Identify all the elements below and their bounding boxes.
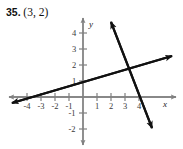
x-tick-label-neg3: -3	[37, 101, 44, 111]
y-tick-label-2: 2	[72, 60, 76, 70]
y-tick-label-neg2: -2	[68, 124, 75, 134]
y-tick-label-neg1: -1	[68, 108, 75, 118]
y-tick-label-4: 4	[72, 28, 77, 38]
graph-figure: 35. (3, 2) -4 -3	[0, 0, 183, 149]
steep-line-group	[111, 22, 152, 128]
shallow-line-right-arrow	[12, 56, 172, 103]
x-tick-label-3: 3	[123, 101, 127, 111]
y-tick-label-3: 3	[72, 44, 76, 54]
steep-line-down-arrow	[111, 22, 152, 128]
shallow-line-group	[12, 56, 172, 103]
y-axis-group: 4 3 2 1 -1 -2 y	[68, 18, 93, 145]
x-tick-label-2: 2	[109, 101, 113, 111]
x-tick-label-neg4: -4	[23, 101, 31, 111]
x-tick-label-1: 1	[95, 101, 99, 111]
x-tick-label-neg2: -2	[51, 101, 58, 111]
coordinate-plane: -4 -3 -2 -1 1 2 3 4 x 4 3 2 1 -1	[0, 0, 183, 149]
y-axis-label: y	[88, 19, 93, 29]
x-axis-label: x	[162, 99, 167, 109]
